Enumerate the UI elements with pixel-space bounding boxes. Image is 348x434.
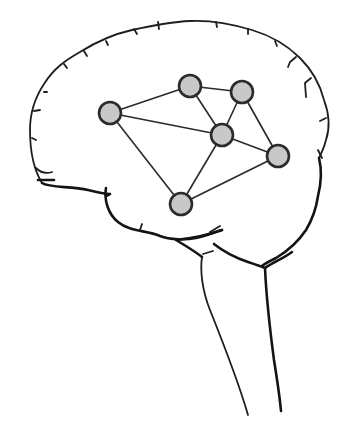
network-edge-n1-n4 [110, 113, 222, 135]
network-node-n6 [170, 193, 192, 215]
network-nodes [99, 75, 289, 215]
brain-outline [30, 21, 329, 268]
network-node-n4 [211, 124, 233, 146]
network-node-n1 [99, 102, 121, 124]
network-node-n5 [267, 145, 289, 167]
network-edge-n1-n2 [110, 86, 190, 113]
network-edge-n1-n6 [110, 113, 181, 204]
network-edges [110, 86, 278, 204]
network-node-n3 [231, 81, 253, 103]
brain-stem [201, 257, 281, 415]
network-node-n2 [179, 75, 201, 97]
brain-network-diagram [0, 0, 348, 434]
diagram-canvas [0, 0, 348, 434]
